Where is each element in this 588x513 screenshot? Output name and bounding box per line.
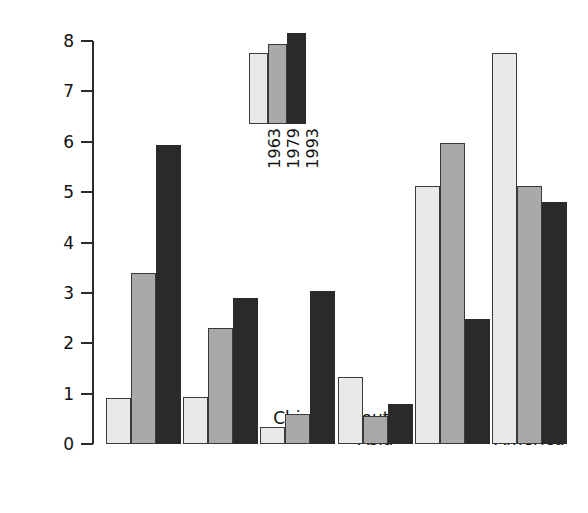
y-tick-label-8: 8 — [48, 31, 74, 51]
bar-group — [492, 41, 567, 444]
y-tick-label-2: 2 — [48, 333, 74, 353]
y-tick-label-6: 6 — [48, 132, 74, 152]
legend-swatch-1993 — [287, 33, 306, 124]
bar[interactable] — [542, 202, 567, 444]
bar-chart: Per cent 012345678 NIE - 1NIE - 2ChinaSo… — [0, 0, 588, 513]
bar[interactable] — [233, 298, 258, 444]
bar[interactable] — [131, 273, 156, 444]
bar[interactable] — [363, 416, 388, 444]
bar[interactable] — [310, 291, 335, 444]
bar-group — [415, 41, 490, 444]
bar[interactable] — [415, 186, 440, 444]
bar[interactable] — [465, 319, 490, 444]
bar[interactable] — [285, 414, 310, 444]
bar[interactable] — [208, 328, 233, 444]
bar[interactable] — [156, 145, 181, 444]
bar-group — [338, 41, 413, 444]
y-tick-label-5: 5 — [48, 182, 74, 202]
y-tick-label-0: 0 — [48, 434, 74, 454]
bar[interactable] — [183, 397, 208, 444]
y-tick-label-7: 7 — [48, 81, 74, 101]
legend-swatch-1963 — [249, 53, 268, 124]
bar[interactable] — [517, 186, 542, 444]
y-tick-label-4: 4 — [48, 233, 74, 253]
bar-group — [106, 41, 181, 444]
bar[interactable] — [106, 398, 131, 444]
bar[interactable] — [440, 143, 465, 444]
legend-label-1963: 1963 — [265, 128, 284, 169]
y-tick-label-1: 1 — [48, 384, 74, 404]
bar[interactable] — [338, 377, 363, 445]
legend-label-1979: 1979 — [284, 128, 303, 169]
legend — [249, 33, 307, 124]
bar[interactable] — [260, 427, 285, 444]
bar-group — [183, 41, 258, 444]
plot-area — [92, 41, 584, 444]
legend-label-1993: 1993 — [303, 128, 322, 169]
y-tick-label-3: 3 — [48, 283, 74, 303]
bar[interactable] — [492, 53, 517, 444]
bar[interactable] — [388, 404, 413, 444]
legend-swatch-1979 — [268, 44, 287, 124]
